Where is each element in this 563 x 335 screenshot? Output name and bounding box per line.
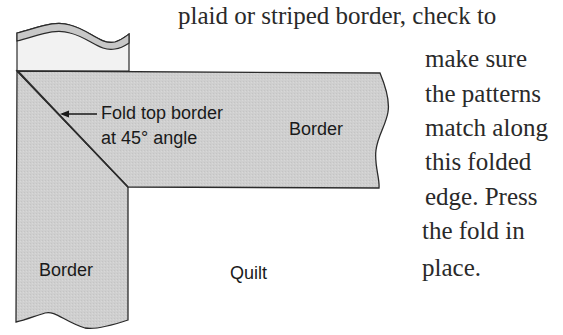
text-line-5: this folded xyxy=(425,149,531,174)
folded-strip xyxy=(17,23,129,71)
text-line-7: the fold in xyxy=(422,218,525,243)
text-line-2: make sure xyxy=(425,46,527,71)
fold-note-line2: at 45° angle xyxy=(101,129,197,147)
top-border-label: Border xyxy=(289,120,343,138)
quilt-label: Quilt xyxy=(230,264,267,282)
text-line-8: place. xyxy=(422,255,481,280)
text-line-3: the patterns xyxy=(425,81,541,106)
text-line-4: match along xyxy=(425,115,548,140)
text-line-1: plaid or striped border, check to xyxy=(178,3,496,28)
text-line-6: edge. Press xyxy=(425,184,537,209)
fold-note-line1: Fold top border xyxy=(101,104,223,122)
side-border-label: Border xyxy=(39,261,93,279)
